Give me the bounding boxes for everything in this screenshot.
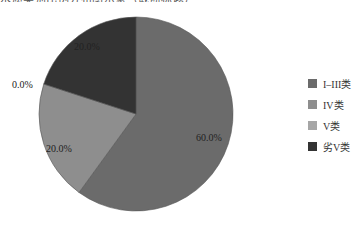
legend-item-3: V类 — [308, 115, 351, 135]
slice-label-1: 60.0% — [196, 132, 222, 143]
legend-swatch-icon — [308, 121, 317, 130]
pie-slices — [39, 17, 233, 211]
legend: I–III类 IV类 V类 劣V类 — [308, 73, 351, 157]
slice-label-4: 20.0% — [74, 41, 100, 52]
legend-swatch-icon — [308, 79, 317, 88]
pie-chart: 60.0% 20.0% 0.0% 20.0% — [0, 0, 361, 225]
legend-item-1: I–III类 — [308, 73, 351, 93]
legend-swatch-icon — [308, 142, 317, 151]
legend-item-2: IV类 — [308, 94, 351, 114]
slice-label-2: 20.0% — [46, 143, 72, 154]
legend-swatch-icon — [308, 100, 317, 109]
slice-label-3: 0.0% — [12, 79, 33, 90]
legend-item-4: 劣V类 — [308, 136, 351, 156]
